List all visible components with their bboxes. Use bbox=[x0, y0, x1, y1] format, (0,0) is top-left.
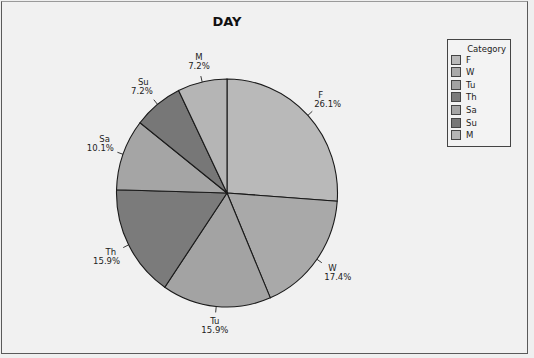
legend-title: Category bbox=[448, 44, 506, 54]
leader-line bbox=[154, 100, 158, 105]
legend-item-sa: Sa bbox=[451, 104, 477, 115]
legend-item-w: W bbox=[451, 67, 474, 78]
legend-swatch bbox=[451, 92, 461, 102]
legend-swatch bbox=[451, 105, 461, 115]
leader-line bbox=[308, 111, 312, 115]
legend-swatch bbox=[451, 80, 461, 90]
legend-swatch bbox=[451, 118, 461, 128]
slice-label-percent: 7.2% bbox=[188, 61, 210, 71]
slice-label-percent: 26.1% bbox=[314, 99, 341, 109]
legend-item-th: Th bbox=[451, 92, 477, 103]
legend-swatch bbox=[451, 55, 461, 65]
leader-line bbox=[201, 76, 202, 82]
legend-swatch bbox=[451, 67, 461, 77]
legend-label: Sa bbox=[466, 105, 477, 115]
legend: Category FWTuThSaSuM bbox=[447, 39, 511, 147]
slice-label-percent: 15.9% bbox=[93, 256, 120, 266]
slice-label-percent: 15.9% bbox=[201, 325, 228, 335]
slice-label-percent: 17.4% bbox=[324, 272, 351, 282]
leader-line bbox=[123, 245, 128, 248]
legend-swatch bbox=[451, 130, 461, 140]
legend-item-f: F bbox=[451, 54, 471, 65]
legend-item-tu: Tu bbox=[451, 79, 475, 90]
slice-label-percent: 10.1% bbox=[87, 143, 114, 153]
legend-item-su: Su bbox=[451, 117, 477, 128]
legend-label: Th bbox=[466, 92, 477, 102]
legend-item-m: M bbox=[451, 130, 473, 141]
legend-label: Su bbox=[466, 118, 477, 128]
legend-label: F bbox=[466, 55, 471, 65]
leader-line bbox=[117, 152, 123, 154]
legend-label: Tu bbox=[466, 80, 475, 90]
pie-slices bbox=[117, 79, 338, 307]
leader-line bbox=[317, 259, 322, 262]
slice-label-percent: 7.2% bbox=[131, 86, 153, 96]
legend-label: W bbox=[466, 67, 474, 77]
leader-line bbox=[216, 306, 217, 312]
legend-label: M bbox=[466, 130, 473, 140]
